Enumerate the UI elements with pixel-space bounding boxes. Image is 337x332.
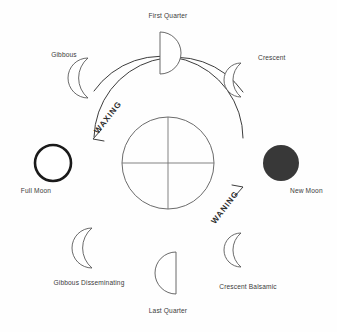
full-moon-label: Full Moon bbox=[21, 187, 51, 194]
new-moon-label: New Moon bbox=[290, 187, 323, 194]
waning-arrow-group bbox=[94, 56, 243, 196]
full-moon-icon bbox=[35, 145, 71, 181]
crescent-balsamic-label: Crescent Balsamic bbox=[219, 283, 277, 290]
first-quarter-label: First Quarter bbox=[149, 12, 189, 20]
crescent-label: Crescent bbox=[258, 54, 286, 61]
first-quarter-icon bbox=[160, 32, 181, 74]
phase-gibbous[interactable]: Gibbous bbox=[51, 51, 88, 98]
phase-crescent-balsamic[interactable]: Crescent Balsamic bbox=[219, 233, 277, 290]
phase-gibbous-disseminating[interactable]: Gibbous Disseminating bbox=[54, 228, 125, 287]
last-quarter-icon bbox=[155, 252, 176, 294]
phase-last-quarter[interactable]: Last Quarter bbox=[149, 252, 188, 315]
phase-first-quarter[interactable]: First Quarter bbox=[149, 12, 189, 74]
phase-full-moon[interactable]: Full Moon bbox=[21, 145, 71, 194]
last-quarter-label: Last Quarter bbox=[149, 307, 188, 315]
gibbous-label: Gibbous bbox=[51, 51, 77, 58]
diagram-canvas: First Quarter Crescent New Moon Crescent… bbox=[0, 0, 337, 332]
crescent-icon bbox=[224, 63, 241, 97]
gibbous-disseminating-label: Gibbous Disseminating bbox=[54, 279, 125, 287]
earth-symbol bbox=[122, 117, 214, 209]
new-moon-icon bbox=[263, 145, 299, 181]
crescent-balsamic-icon bbox=[224, 233, 241, 267]
waning-label: WANING bbox=[209, 189, 240, 225]
moon-phase-diagram: First Quarter Crescent New Moon Crescent… bbox=[0, 0, 337, 332]
phase-crescent[interactable]: Crescent bbox=[224, 54, 286, 97]
phase-new-moon[interactable]: New Moon bbox=[263, 145, 323, 194]
gibbous-icon bbox=[68, 58, 88, 98]
gibbous-disseminating-icon bbox=[72, 228, 92, 268]
